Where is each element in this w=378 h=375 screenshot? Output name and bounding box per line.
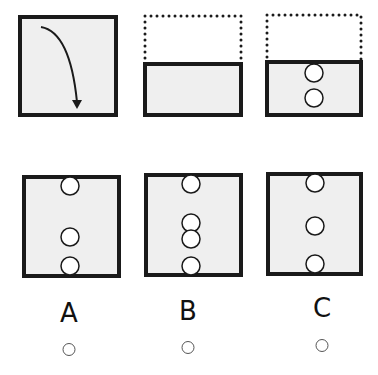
hole-circle (61, 257, 79, 275)
hole-circle (182, 175, 200, 193)
hole-circle (182, 257, 200, 275)
option-label-c: C (313, 293, 331, 323)
folded-paper (145, 64, 241, 115)
fold-square (20, 17, 116, 115)
hole-circle (306, 217, 324, 235)
folded-outline (145, 16, 241, 64)
option-label-a: A (60, 298, 78, 328)
hole-circle (61, 177, 79, 195)
option-radio-b[interactable] (182, 341, 195, 354)
hole-circle (306, 255, 324, 273)
option-label-b: B (179, 296, 197, 326)
option-radio-a[interactable] (63, 343, 76, 356)
option-radio-c[interactable] (316, 339, 329, 352)
hole-circle (305, 89, 323, 107)
hole-circle (306, 174, 324, 192)
hole-circle (182, 230, 200, 248)
punched-outline (267, 15, 361, 62)
hole-circle (305, 64, 323, 82)
hole-circle (61, 228, 79, 246)
